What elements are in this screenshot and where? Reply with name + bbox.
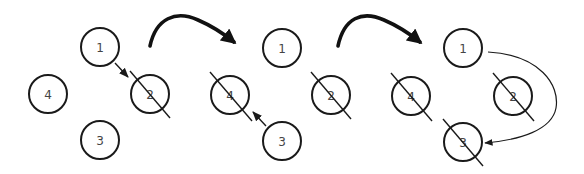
svg-text:4: 4 bbox=[44, 88, 52, 102]
node-2-struck: 2 bbox=[130, 71, 170, 118]
arrow-1-to-2 bbox=[115, 63, 128, 77]
node-4-struck: 4 bbox=[210, 72, 252, 121]
panel-1: 1 2 3 4 bbox=[29, 28, 170, 159]
transition-arrow-1-to-2 bbox=[150, 16, 234, 46]
svg-text:1: 1 bbox=[459, 42, 467, 56]
svg-text:3: 3 bbox=[96, 134, 104, 148]
node-2-struck: 2 bbox=[311, 72, 351, 119]
node-4: 4 bbox=[29, 75, 67, 113]
svg-text:3: 3 bbox=[278, 135, 286, 149]
node-1: 1 bbox=[81, 28, 119, 66]
node-1: 1 bbox=[263, 29, 301, 67]
svg-text:1: 1 bbox=[278, 42, 286, 56]
node-3: 3 bbox=[263, 122, 301, 160]
node-3: 3 bbox=[81, 121, 119, 159]
arrow-3-to-4 bbox=[253, 112, 266, 126]
sequence-diagram: 1 2 3 4 1 2 3 bbox=[0, 0, 584, 174]
panel-2: 1 2 3 4 bbox=[210, 29, 351, 160]
node-2-struck: 2 bbox=[493, 73, 534, 121]
transition-arrow-2-to-3 bbox=[338, 16, 420, 46]
panel-3: 1 2 3 4 bbox=[391, 29, 556, 166]
svg-text:1: 1 bbox=[96, 41, 104, 55]
node-3-struck: 3 bbox=[443, 119, 483, 166]
node-1: 1 bbox=[444, 29, 482, 67]
node-4-struck: 4 bbox=[391, 73, 432, 121]
